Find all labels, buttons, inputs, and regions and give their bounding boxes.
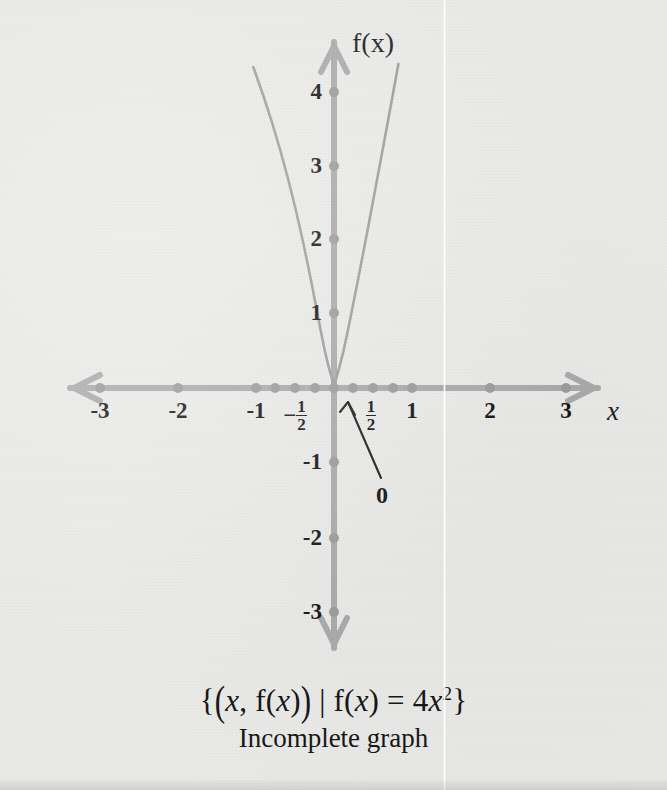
- graph-figure: f(x) x -3 -2 -1 −12 12 1 2 3 4 3 2 1 -1 …: [0, 0, 667, 790]
- y-axis-label-f: f(x): [352, 27, 394, 58]
- close-brace: }: [452, 683, 467, 718]
- y-tick-label-neg3: -3: [280, 599, 322, 625]
- comma: ,: [239, 683, 247, 718]
- minus-sign: −: [283, 403, 296, 428]
- y-tick-dot: [329, 87, 339, 97]
- x-tick-dot: [270, 383, 280, 393]
- x-tick-dot: [348, 383, 358, 393]
- x-tick-label-neg2: -2: [162, 398, 194, 424]
- close-paren-big: ): [301, 677, 312, 725]
- fraction-denominator: 2: [296, 416, 307, 433]
- y-tick-label-2: 2: [296, 226, 322, 252]
- function-name-f: f: [334, 683, 345, 718]
- y-tick-label-4: 4: [296, 79, 322, 105]
- open-brace: {: [200, 683, 215, 718]
- set-builder-notation: {(x, f(x)) | f(x) = 4x2}: [0, 683, 667, 719]
- y-tick-dot: [329, 607, 339, 617]
- y-tick-dot: [329, 234, 339, 244]
- x-tick-label-1: 1: [398, 398, 426, 424]
- variable-x: x: [225, 683, 239, 718]
- origin-annotation-label: 0: [376, 482, 388, 509]
- x-tick-label-2: 2: [476, 398, 504, 424]
- coordinate-plane-svg: [0, 0, 667, 700]
- fraction-one-half: 12: [366, 398, 377, 433]
- parabola-path: [253, 64, 398, 388]
- paren-close: ): [369, 683, 380, 718]
- such-that-bar: |: [319, 683, 325, 718]
- exponent-2: 2: [442, 683, 452, 704]
- x-tick-label-3: 3: [552, 398, 580, 424]
- x-tick-label-neg-half: −12: [277, 398, 313, 433]
- x-tick-label-neg1: -1: [240, 398, 272, 424]
- x-tick-dot: [368, 383, 378, 393]
- y-axis-label: f(x): [352, 27, 394, 59]
- variable-x: x: [276, 683, 290, 718]
- y-tick-dot: [329, 533, 339, 543]
- figure-caption: {(x, f(x)) | f(x) = 4x2} Incomplete grap…: [0, 683, 667, 754]
- y-tick-label-neg1: -1: [280, 449, 322, 475]
- y-tick-dot: [329, 457, 339, 467]
- fraction-numerator: 1: [296, 398, 307, 416]
- x-tick-dot: [251, 383, 261, 393]
- x-tick-dot: [485, 383, 495, 393]
- variable-x: x: [355, 683, 369, 718]
- paren-close: ): [290, 683, 301, 718]
- function-name-f: f: [255, 683, 266, 718]
- fraction-denominator: 2: [366, 416, 377, 433]
- y-tick-dot: [329, 161, 339, 171]
- variable-x: x: [428, 683, 442, 718]
- x-tick-dot: [310, 383, 320, 393]
- coefficient-4: 4: [413, 683, 429, 718]
- y-tick-label-1: 1: [296, 300, 322, 326]
- caption-subtitle: Incomplete graph: [0, 723, 667, 754]
- open-paren-big: (: [215, 677, 226, 725]
- x-tick-dot: [95, 383, 105, 393]
- x-tick-dot: [561, 383, 571, 393]
- equals-sign: =: [387, 683, 405, 718]
- fraction-numerator: 1: [366, 398, 377, 416]
- x-tick-dot: [173, 383, 183, 393]
- y-tick-label-3: 3: [296, 153, 322, 179]
- paren-open: (: [266, 683, 277, 718]
- y-tick-dot: [329, 308, 339, 318]
- paren-open: (: [344, 683, 355, 718]
- x-tick-label-pos-half: 12: [356, 398, 386, 433]
- x-axis-label: x: [607, 396, 619, 427]
- x-tick-label-neg3: -3: [84, 398, 116, 424]
- x-tick-dot: [407, 383, 417, 393]
- y-tick-label-neg2: -2: [280, 525, 322, 551]
- fraction-one-half: 12: [296, 398, 307, 433]
- x-tick-dot: [388, 383, 398, 393]
- x-tick-dot: [290, 383, 300, 393]
- parabola-curve: [253, 64, 398, 388]
